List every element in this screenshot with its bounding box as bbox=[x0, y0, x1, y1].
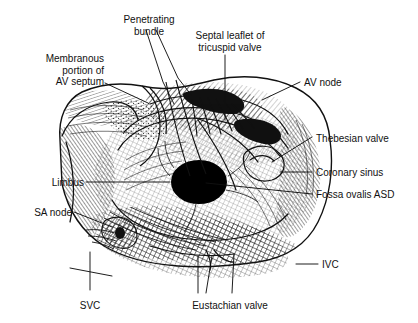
label-thebesian-valve: Thebesian valve bbox=[316, 133, 412, 145]
label-av-node: AV node bbox=[304, 77, 364, 89]
figure-canvas: Penetrating bundle Septal leaflet of tri… bbox=[0, 0, 418, 323]
label-limbus: Limbus bbox=[30, 177, 84, 189]
label-eustachian-valve: Eustachian valve bbox=[180, 300, 280, 312]
leader-svc-cross bbox=[70, 268, 112, 276]
label-septal-leaflet-of-tricuspid-valve: Septal leaflet of tricuspid valve bbox=[182, 30, 278, 53]
atrial-septum-body bbox=[55, 77, 331, 278]
label-sa-node: SA node bbox=[12, 207, 72, 219]
label-fossa-ovalis-asd: Fossa ovalis ASD bbox=[316, 189, 416, 201]
label-ivc: IVC bbox=[322, 259, 352, 271]
label-coronary-sinus: Coronary sinus bbox=[316, 167, 408, 179]
label-penetrating-bundle: Penetrating bundle bbox=[110, 14, 188, 37]
label-membranous-portion-of-av-septum: Membranous portion of AV septum bbox=[18, 53, 104, 88]
label-svc: SVC bbox=[73, 300, 107, 312]
